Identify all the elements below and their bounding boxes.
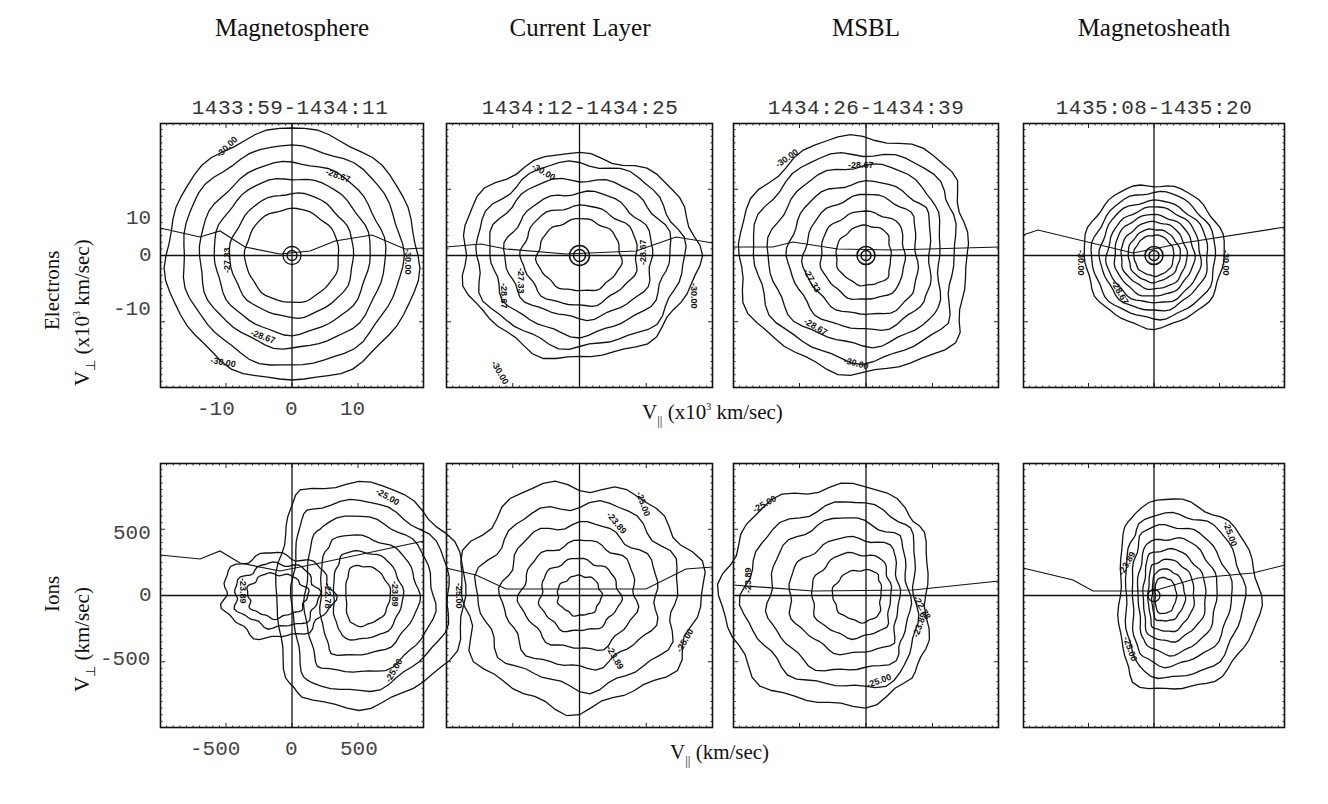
ylabel-sup: 3 bbox=[71, 311, 82, 316]
ytick: -10 bbox=[113, 298, 151, 321]
svg-text:-30.00: -30.00 bbox=[403, 249, 413, 275]
svg-text:-27.33: -27.33 bbox=[222, 247, 232, 273]
ytick: 500 bbox=[113, 522, 151, 545]
svg-text:-27.33: -27.33 bbox=[516, 268, 526, 294]
electrons-xlabel: V|| (x103 km/sec) bbox=[642, 400, 783, 429]
svg-text:-28.67: -28.67 bbox=[848, 160, 874, 170]
xtick: 0 bbox=[285, 738, 298, 761]
time-range-4: 1435:08-1435:20 bbox=[1014, 97, 1294, 120]
ions-ylabel-units: V⊥ (km/sec) bbox=[70, 587, 99, 692]
svg-text:-22.78: -22.78 bbox=[323, 583, 333, 609]
xtick: -10 bbox=[197, 398, 235, 421]
svg-text:-28.67: -28.67 bbox=[1109, 279, 1130, 306]
ylabel-suffix: (km/sec) bbox=[70, 587, 94, 666]
panel-electrons-msbl: -30.00-28.67-27.33-28.67-30.00 bbox=[733, 123, 999, 388]
ytick: 10 bbox=[126, 207, 151, 230]
ylabel-suffix: km/sec) bbox=[70, 239, 94, 311]
svg-text:-23.89: -23.89 bbox=[390, 581, 400, 607]
svg-text:-28.67: -28.67 bbox=[638, 239, 648, 265]
svg-text:-30.00: -30.00 bbox=[210, 355, 237, 369]
ytick: 0 bbox=[139, 584, 152, 607]
svg-text:-23.89: -23.89 bbox=[743, 567, 753, 593]
xtick: 500 bbox=[340, 738, 378, 761]
svg-text:-30.00: -30.00 bbox=[1221, 250, 1231, 276]
time-range-3: 1434:26-1434:39 bbox=[726, 97, 1006, 120]
panel-ions-magnetosheath: -25.00-23.89-25.00 bbox=[1023, 463, 1285, 728]
panel-electrons-magnetosheath: -30.00-28.67-30.00 bbox=[1023, 123, 1285, 388]
svg-text:-25.00: -25.00 bbox=[634, 490, 652, 517]
time-range-1: 1433:59-1434:11 bbox=[150, 97, 430, 120]
svg-text:-30.00: -30.00 bbox=[1076, 250, 1086, 276]
svg-text:-25.00: -25.00 bbox=[454, 583, 464, 609]
column-title-msbl: MSBL bbox=[726, 14, 1006, 42]
column-title-magnetosphere: Magnetosphere bbox=[152, 14, 432, 42]
xtick: 10 bbox=[340, 398, 365, 421]
perp-subscript: ⊥ bbox=[83, 360, 98, 371]
v-symbol: V bbox=[642, 400, 657, 424]
panel-ions-current-layer: -25.00-23.89-25.00-23.89-25.00 bbox=[446, 463, 713, 728]
svg-text:-28.67: -28.67 bbox=[802, 316, 829, 337]
svg-text:-30.00: -30.00 bbox=[489, 359, 510, 386]
svg-text:-25.00: -25.00 bbox=[674, 627, 695, 654]
v-symbol: V bbox=[70, 677, 94, 692]
panel-ions-magnetosphere: -25.00-23.89-22.78-23.89-25.00 bbox=[160, 463, 424, 728]
svg-text:-23.89: -23.89 bbox=[910, 611, 928, 638]
ylabel-prefix: (x10 bbox=[70, 316, 94, 360]
svg-text:-23.89: -23.89 bbox=[604, 644, 625, 671]
svg-text:-25.00: -25.00 bbox=[1221, 520, 1239, 547]
svg-text:-30.00: -30.00 bbox=[689, 283, 699, 309]
xtick: -500 bbox=[190, 738, 240, 761]
column-title-magnetosheath: Magnetosheath bbox=[1014, 14, 1294, 42]
species-label: Ions bbox=[40, 576, 64, 612]
v-symbol: V bbox=[70, 371, 94, 386]
xlabel-prefix: (x10 bbox=[662, 400, 706, 424]
v-symbol: V bbox=[670, 740, 685, 764]
panel-electrons-current-layer: -30.00-27.33-28.67-28.67-30.00-30.00 bbox=[446, 123, 713, 388]
svg-text:-30.00: -30.00 bbox=[214, 134, 239, 159]
svg-text:-23.89: -23.89 bbox=[1116, 550, 1137, 577]
panel-ions-msbl: -25.00-23.89-22.78-23.89-25.00 bbox=[733, 463, 999, 728]
svg-text:-28.67: -28.67 bbox=[324, 166, 351, 184]
svg-text:-23.89: -23.89 bbox=[238, 578, 248, 604]
xlabel-suffix: (km/sec) bbox=[690, 740, 769, 764]
ytick: 0 bbox=[139, 244, 152, 267]
xtick: 0 bbox=[285, 398, 298, 421]
svg-text:-27.33: -27.33 bbox=[801, 267, 822, 294]
svg-text:-25.00: -25.00 bbox=[751, 493, 778, 514]
species-label: Electrons bbox=[40, 251, 64, 330]
ytick: -500 bbox=[100, 648, 150, 671]
perp-subscript: ⊥ bbox=[83, 666, 98, 677]
panel-electrons-magnetosphere: -30.00-28.67-27.33-28.67-30.00-30.00 bbox=[160, 123, 424, 388]
time-range-2: 1434:12-1434:25 bbox=[440, 97, 720, 120]
svg-text:-28.67: -28.67 bbox=[499, 283, 509, 309]
column-title-current-layer: Current Layer bbox=[440, 14, 720, 42]
electrons-ylabel-units: V⊥ (x103 km/sec) bbox=[70, 239, 99, 386]
ions-xlabel: V|| (km/sec) bbox=[670, 740, 769, 769]
electrons-ylabel: Electrons bbox=[40, 251, 65, 330]
xlabel-suffix: km/sec) bbox=[711, 400, 783, 424]
ions-ylabel: Ions bbox=[40, 576, 65, 612]
